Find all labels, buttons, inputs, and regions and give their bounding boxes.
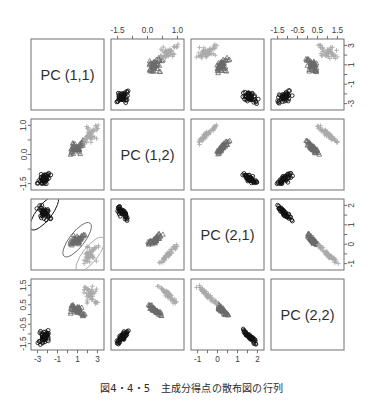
axis-tick-label: -3 bbox=[34, 355, 42, 364]
axis-tick-label: 3 bbox=[95, 355, 100, 364]
points-layer bbox=[116, 205, 180, 266]
point-group-group-2 bbox=[216, 301, 231, 316]
panel-variable-label: PC (2,2) bbox=[281, 307, 335, 323]
point-group-group-1 bbox=[35, 203, 53, 222]
axis-tick-label: -3 bbox=[348, 100, 357, 108]
panel-r3-c3: PC (2,1) bbox=[191, 199, 264, 270]
axis-right-row3: 210-1 bbox=[344, 203, 357, 268]
point-group-group-1 bbox=[241, 172, 259, 185]
panel-variable-label: PC (2,1) bbox=[201, 227, 255, 243]
axis-tick-label: 1.5 bbox=[332, 26, 344, 35]
axis-tick-label: -0.5 bbox=[290, 26, 305, 35]
axis-tick-label: -1 bbox=[348, 80, 357, 88]
point-group-group-2 bbox=[215, 138, 232, 156]
figure-caption: 図4・4・5 主成分得点の散布図の行列 bbox=[0, 380, 383, 395]
panel-r4-c1 bbox=[31, 279, 104, 350]
point-group-group-2 bbox=[215, 55, 232, 74]
panel-r1-c2 bbox=[111, 39, 184, 110]
axis-tick-label: 3 bbox=[348, 43, 357, 48]
points-layer bbox=[194, 283, 258, 346]
points-layer bbox=[35, 123, 100, 186]
panel-r1-c1: PC (1,1) bbox=[31, 39, 104, 110]
points-layer bbox=[115, 284, 179, 346]
point-group-group-3 bbox=[315, 123, 340, 144]
panel-r2-c3 bbox=[191, 119, 264, 190]
panel-r2-c4 bbox=[271, 119, 344, 190]
axis-tick-label: 0.5 bbox=[20, 299, 29, 311]
point-group-group-1 bbox=[241, 90, 260, 105]
axis-tick-label: 2 bbox=[348, 203, 357, 208]
axis-tick-label: 1 bbox=[235, 355, 240, 364]
axis-tick-label: 0 bbox=[348, 241, 357, 246]
axis-tick-label: 2 bbox=[255, 355, 260, 364]
point-group-group-1 bbox=[276, 203, 295, 223]
point-group-group-3 bbox=[155, 284, 178, 306]
axis-tick-label: 1 bbox=[75, 355, 80, 364]
points-layer bbox=[194, 42, 260, 105]
axis-left-row4: 1.50.5-0.5-1.5 bbox=[20, 279, 32, 350]
axis-tick-label: -1.5 bbox=[111, 26, 126, 35]
axis-tick-label: 1.0 bbox=[172, 26, 184, 35]
axis-top-col2: -1.50.01.0 bbox=[111, 26, 184, 40]
axis-tick-label: 1 bbox=[348, 222, 357, 227]
panel-r3-c4 bbox=[271, 199, 344, 270]
scatterplot-matrix-canvas: PC (1,1)PC (1,2)PC (2,1)PC (2,2)-1.50.01… bbox=[0, 0, 383, 405]
point-group-group-3 bbox=[82, 123, 101, 145]
axis-tick-label: -1 bbox=[348, 260, 357, 268]
panel-r4-c2 bbox=[111, 279, 184, 350]
point-group-group-2 bbox=[68, 232, 87, 247]
axis-tick-label: 0.5 bbox=[312, 26, 324, 35]
axis-tick-label: -1.5 bbox=[271, 26, 286, 35]
point-group-group-3 bbox=[196, 123, 218, 147]
points-layer bbox=[36, 284, 100, 347]
panel-r2-c2: PC (1,2) bbox=[111, 119, 184, 190]
point-group-group-3 bbox=[157, 242, 180, 265]
axis-tick-label: 1.5 bbox=[20, 279, 29, 291]
axis-tick-label: -1.5 bbox=[20, 176, 29, 191]
axis-tick-label: 1 bbox=[348, 62, 357, 67]
axis-right-row1: 31-1-3 bbox=[344, 43, 357, 108]
axis-top-col4: -1.5-0.50.51.5 bbox=[271, 26, 344, 40]
point-group-group-1 bbox=[116, 205, 130, 223]
axis-bottom-col3: -1012 bbox=[194, 350, 260, 364]
points-layer bbox=[276, 203, 341, 266]
axis-bottom-col1: -3-113 bbox=[34, 350, 100, 364]
point-group-group-1 bbox=[241, 327, 257, 346]
point-group-group-2 bbox=[304, 56, 319, 73]
axis-tick-label: -1.5 bbox=[20, 336, 29, 351]
axis-tick-label: 0 bbox=[215, 355, 220, 364]
panel-r4-c3 bbox=[191, 279, 264, 350]
panel-variable-label: PC (1,1) bbox=[41, 67, 95, 83]
point-group-group-3 bbox=[82, 243, 101, 266]
panel-r3-c2 bbox=[111, 199, 184, 270]
axis-tick-label: -1 bbox=[54, 355, 62, 364]
panel-r2-c1 bbox=[31, 119, 104, 190]
axis-tick-label: 0.0 bbox=[20, 148, 29, 160]
scatter-plot-matrix-figure: PC (1,1)PC (1,2)PC (2,1)PC (2,2)-1.50.01… bbox=[0, 0, 383, 405]
panel-r1-c3 bbox=[191, 39, 264, 110]
axis-left-row2: 1.00.0-1.5 bbox=[20, 119, 32, 190]
point-group-group-2 bbox=[146, 302, 164, 317]
panel-r3-c1 bbox=[25, 192, 109, 276]
point-group-group-3 bbox=[82, 284, 100, 306]
axis-tick-label: -0.5 bbox=[20, 317, 29, 332]
panel-r4-c4: PC (2,2) bbox=[271, 279, 344, 350]
point-group-group-1 bbox=[115, 329, 130, 346]
points-layer bbox=[196, 123, 258, 185]
points-layer bbox=[275, 123, 340, 185]
panel-variable-label: PC (1,2) bbox=[121, 147, 175, 163]
axis-tick-label: 1.0 bbox=[20, 119, 29, 131]
axis-tick-label: -1 bbox=[194, 355, 202, 364]
points-layer bbox=[276, 43, 340, 105]
axis-tick-label: 0.0 bbox=[142, 26, 154, 35]
point-group-group-3 bbox=[316, 242, 341, 265]
point-group-group-2 bbox=[68, 302, 87, 317]
point-group-group-1 bbox=[115, 89, 130, 105]
point-group-group-2 bbox=[304, 138, 322, 156]
point-group-group-2 bbox=[146, 231, 166, 246]
point-group-group-3 bbox=[316, 43, 340, 61]
point-group-group-1 bbox=[36, 328, 50, 346]
panel-r1-c4 bbox=[271, 39, 344, 110]
points-layer bbox=[115, 42, 180, 105]
point-group-group-1 bbox=[276, 89, 294, 105]
